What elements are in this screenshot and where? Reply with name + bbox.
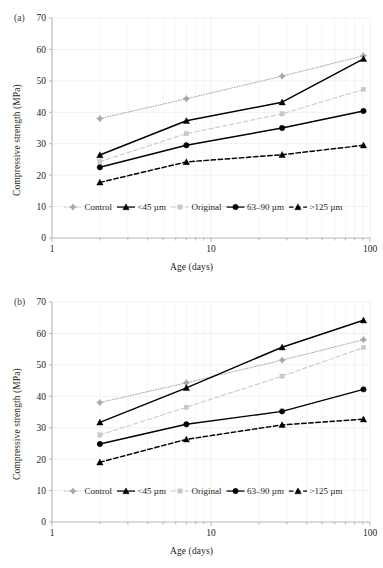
data-point-marker <box>98 159 102 163</box>
legend-label: Original <box>192 486 222 496</box>
plot-area-b: 010203040506070110100Control<45 µmOrigin… <box>0 284 383 568</box>
data-point-marker <box>178 489 182 493</box>
chart-svg-a: 010203040506070110100Control<45 µmOrigin… <box>0 0 383 284</box>
data-point-marker <box>361 87 365 91</box>
y-tick-label: 50 <box>37 76 47 86</box>
y-tick-label: 70 <box>37 297 47 307</box>
plot-area-a: 010203040506070110100Control<45 µmOrigin… <box>0 0 383 284</box>
legend-item--125-m: >125 µm <box>289 202 343 212</box>
x-axis-ticks: 110100 <box>50 238 378 254</box>
chart-panel-a: (a) Compressive strength (MPa) 010203040… <box>0 0 383 284</box>
legend-label: >125 µm <box>309 486 342 496</box>
legend-label: Control <box>85 486 113 496</box>
legend-label: 63–90 µm <box>247 486 284 496</box>
data-point-marker <box>280 112 284 116</box>
x-axis-label-b: Age (days) <box>0 546 383 556</box>
x-tick-label: 100 <box>363 244 378 254</box>
y-tick-label: 10 <box>37 202 47 212</box>
series-line <box>100 419 364 462</box>
series--125-m <box>97 142 367 185</box>
data-point-marker <box>361 108 366 113</box>
legend-label: <45 µm <box>138 486 167 496</box>
data-point-marker <box>178 205 182 209</box>
series-63-90-m <box>97 108 366 170</box>
legend-item-63-90-m: 63–90 µm <box>227 202 284 212</box>
y-tick-label: 20 <box>37 455 47 465</box>
y-axis-ticks: 010203040506070 <box>37 297 53 527</box>
data-point-marker <box>184 143 189 148</box>
data-point-marker <box>233 488 238 493</box>
y-tick-label: 30 <box>37 423 47 433</box>
legend-item--125-m: >125 µm <box>289 486 343 496</box>
series-line <box>100 89 364 161</box>
data-point-marker <box>98 433 102 437</box>
chart-panel-b: (b) Compressive strength (MPa) 010203040… <box>0 284 383 568</box>
series-original <box>98 345 366 437</box>
data-point-marker <box>361 387 366 392</box>
series-line <box>100 56 364 119</box>
y-tick-label: 40 <box>37 108 47 118</box>
series-control <box>96 336 367 406</box>
legend-label: <45 µm <box>138 202 167 212</box>
y-tick-label: 20 <box>37 171 47 181</box>
legend-label: >125 µm <box>309 202 342 212</box>
x-tick-label: 10 <box>206 244 216 254</box>
series-line <box>100 389 364 444</box>
legend-item-63-90-m: 63–90 µm <box>227 486 284 496</box>
series-original <box>98 87 366 164</box>
y-tick-label: 30 <box>37 139 47 149</box>
y-tick-label: 40 <box>37 392 47 402</box>
series-63-90-m <box>97 387 366 447</box>
legend-label: Original <box>192 202 222 212</box>
legend-item-control: Control <box>64 486 113 496</box>
y-tick-label: 10 <box>37 486 47 496</box>
data-point-marker <box>279 125 284 130</box>
chart-legend: Control<45 µmOriginal63–90 µm>125 µm <box>64 202 342 212</box>
y-tick-label: 60 <box>37 45 47 55</box>
chart-svg-b: 010203040506070110100Control<45 µmOrigin… <box>0 284 383 568</box>
data-point-marker <box>233 204 238 209</box>
x-axis-label-a: Age (days) <box>0 262 383 272</box>
x-axis-ticks: 110100 <box>50 522 378 538</box>
series-line <box>100 340 364 403</box>
data-point-marker <box>97 165 102 170</box>
series-line <box>100 59 364 155</box>
x-tick-label: 10 <box>206 528 216 538</box>
data-point-marker <box>184 131 188 135</box>
x-tick-label: 100 <box>363 528 378 538</box>
data-point-marker <box>183 159 189 165</box>
x-tick-label: 1 <box>50 528 55 538</box>
data-point-marker <box>184 422 189 427</box>
legend-label: Control <box>85 202 113 212</box>
y-tick-label: 50 <box>37 360 47 370</box>
chart-legend: Control<45 µmOriginal63–90 µm>125 µm <box>64 486 342 496</box>
legend-item-original: Original <box>171 486 222 496</box>
series--45-m <box>97 56 367 158</box>
y-tick-label: 70 <box>37 13 47 23</box>
data-point-marker <box>97 441 102 446</box>
legend-item-control: Control <box>64 202 113 212</box>
data-point-marker <box>360 317 366 323</box>
y-axis-ticks: 010203040506070 <box>37 13 53 243</box>
y-tick-label: 0 <box>41 233 46 243</box>
series-line <box>100 145 364 182</box>
data-point-marker <box>280 374 284 378</box>
series-line <box>100 320 364 422</box>
figure-container: (a) Compressive strength (MPa) 010203040… <box>0 0 383 568</box>
legend-item-original: Original <box>171 202 222 212</box>
data-point-marker <box>361 345 365 349</box>
x-tick-label: 1 <box>50 244 55 254</box>
data-point-marker <box>184 405 188 409</box>
legend-label: 63–90 µm <box>247 202 284 212</box>
data-point-marker <box>279 409 284 414</box>
legend-item--45-m: <45 µm <box>117 202 166 212</box>
y-tick-label: 60 <box>37 329 47 339</box>
y-tick-label: 0 <box>41 517 46 527</box>
legend-item--45-m: <45 µm <box>117 486 166 496</box>
